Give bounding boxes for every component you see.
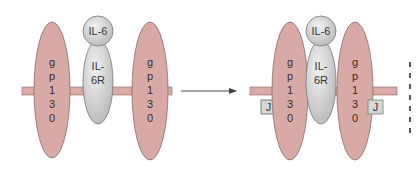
gp130-left-a: g p 1 3 0 bbox=[34, 22, 70, 158]
gp130-label-char: 1 bbox=[352, 84, 358, 96]
gp130-label-char: 3 bbox=[147, 98, 153, 110]
il6r-right: IL- 6R bbox=[306, 40, 336, 124]
gp130-left-b: g p 1 3 0 bbox=[132, 22, 168, 160]
gp130-label-char: g bbox=[287, 56, 293, 68]
il6r-left: IL- 6R bbox=[83, 40, 113, 124]
il6-signaling-diagram: g p 1 3 0 IL- 6R IL-6 g p 1 3 0 bbox=[0, 0, 417, 174]
il6r-label-line2: 6R bbox=[91, 74, 105, 86]
gp130-label-char: p bbox=[49, 70, 55, 82]
gp130-label-char: 3 bbox=[49, 98, 55, 110]
gp130-label-char: 1 bbox=[49, 84, 55, 96]
cropped-edge-text bbox=[409, 62, 413, 152]
gp130-right-a: g p 1 3 0 bbox=[272, 22, 308, 160]
il6r-label-line1: IL- bbox=[315, 60, 328, 72]
gp130-label-char: g bbox=[352, 56, 358, 68]
il6-ligand-right: IL-6 bbox=[306, 16, 336, 46]
il6-label: IL-6 bbox=[89, 25, 108, 37]
il6-label: IL-6 bbox=[312, 25, 331, 37]
il6-ligand-left: IL-6 bbox=[83, 16, 113, 46]
gp130-label-char: g bbox=[49, 56, 55, 68]
gp130-label-char: 1 bbox=[287, 84, 293, 96]
gp130-label-char: 0 bbox=[49, 112, 55, 124]
left-panel: g p 1 3 0 IL- 6R IL-6 g p 1 3 0 bbox=[22, 16, 172, 160]
il6r-label-line1: IL- bbox=[92, 60, 105, 72]
gp130-label-char: p bbox=[287, 70, 293, 82]
gp130-label-char: g bbox=[147, 56, 153, 68]
gp130-label-char: 3 bbox=[352, 98, 358, 110]
gp130-label-char: p bbox=[352, 70, 358, 82]
gp130-right-b: g p 1 3 0 bbox=[337, 22, 373, 160]
gp130-label-char: 0 bbox=[352, 112, 358, 124]
jak-right: J bbox=[368, 100, 383, 114]
gp130-label-char: 1 bbox=[147, 84, 153, 96]
gp130-label-char: 0 bbox=[287, 112, 293, 124]
gp130-label-char: 3 bbox=[287, 98, 293, 110]
gp130-label-char: p bbox=[147, 70, 153, 82]
il6r-label-line2: 6R bbox=[314, 74, 328, 86]
jak-label: J bbox=[266, 101, 272, 113]
gp130-label-char: 0 bbox=[147, 112, 153, 124]
jak-label: J bbox=[373, 101, 379, 113]
right-panel: J g p 1 3 0 IL- 6R IL-6 g p 1 3 0 bbox=[250, 16, 397, 160]
